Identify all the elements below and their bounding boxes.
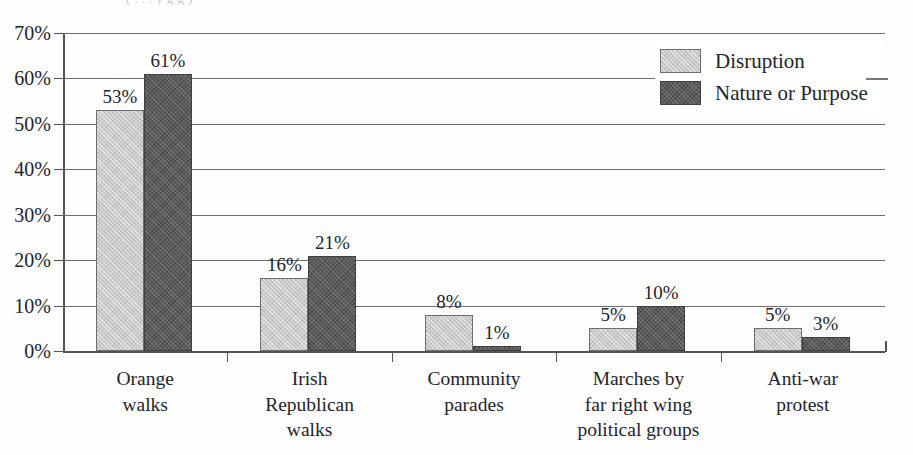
x-axis-category-line: walks <box>63 392 227 418</box>
x-axis-category-line: far right wing <box>556 392 720 418</box>
scan-artifact-dash <box>866 78 888 80</box>
x-axis-start-cap <box>63 341 65 352</box>
y-tick-30 <box>54 215 63 216</box>
bar-value-label: 61% <box>131 51 205 70</box>
legend-item-disruption: Disruption <box>655 45 885 77</box>
x-axis-category-label: IrishRepublicanwalks <box>227 366 391 443</box>
bar <box>144 74 192 351</box>
x-axis-category-line: Republican <box>227 392 391 418</box>
y-axis-tick-label: 20% <box>3 250 51 270</box>
bar-value-label: 5% <box>576 305 650 324</box>
y-axis-tick-label: 0% <box>3 341 51 361</box>
x-axis-category-line: parades <box>392 392 556 418</box>
y-axis-line <box>63 33 65 351</box>
legend-swatch-disruption <box>660 49 701 73</box>
x-axis-category-line: Anti-war <box>721 366 885 392</box>
bar-value-label: 8% <box>412 292 486 311</box>
x-axis-category-label: Anti-warprotest <box>721 366 885 417</box>
x-axis-category-line: Community <box>392 366 556 392</box>
x-axis-tick <box>556 351 557 362</box>
legend-swatch-nature-or-purpose <box>660 81 701 105</box>
legend-label-disruption: Disruption <box>715 51 805 72</box>
y-axis-tick-label: 10% <box>3 296 51 316</box>
x-axis-category-label: Communityparades <box>392 366 556 417</box>
gridline-70 <box>63 33 885 34</box>
y-axis-tick-label: 70% <box>3 23 51 43</box>
legend-label-nature-or-purpose: Nature or Purpose <box>715 83 868 104</box>
x-axis-tick <box>721 351 722 362</box>
y-tick-50 <box>54 124 63 125</box>
y-tick-10 <box>54 306 63 307</box>
y-axis-tick-label: 50% <box>3 114 51 134</box>
x-axis-category-line: Irish <box>227 366 391 392</box>
bar-value-label: 21% <box>295 233 369 252</box>
x-axis-category-line: Orange <box>63 366 227 392</box>
y-axis-tick-label: 40% <box>3 159 51 179</box>
x-axis-category-label: Marches byfar right wingpolitical groups <box>556 366 720 443</box>
bar-value-label: 3% <box>789 314 863 333</box>
x-axis-tick <box>227 351 228 362</box>
chart-legend: Disruption Nature or Purpose <box>655 41 885 115</box>
y-tick-60 <box>54 78 63 79</box>
bar-value-label: 53% <box>83 87 157 106</box>
x-axis-end-cap <box>885 341 887 352</box>
caption-remnant: ( . . . y g g ) <box>126 0 686 5</box>
bar-value-label: 1% <box>460 323 534 342</box>
legend-item-nature-or-purpose: Nature or Purpose <box>655 77 885 109</box>
y-axis-tick-label: 30% <box>3 205 51 225</box>
x-axis-category-line: Marches by <box>556 366 720 392</box>
x-axis-tick <box>392 351 393 362</box>
bar-chart-figure: ( . . . y g g ) 0%10%20%30%40%50%60%70% … <box>0 0 913 455</box>
bar <box>802 337 850 351</box>
x-axis-category-line: protest <box>721 392 885 418</box>
bar-value-label: 16% <box>247 255 321 274</box>
y-tick-70 <box>54 33 63 34</box>
bar <box>589 328 637 351</box>
y-axis-tick-label: 60% <box>3 68 51 88</box>
x-axis-line <box>63 351 885 353</box>
x-axis-category-line: walks <box>227 417 391 443</box>
y-tick-40 <box>54 169 63 170</box>
y-tick-0 <box>54 351 63 352</box>
x-axis-category-label: Orangewalks <box>63 366 227 417</box>
x-axis-category-line: political groups <box>556 417 720 443</box>
y-tick-20 <box>54 260 63 261</box>
bar-value-label: 10% <box>624 283 698 302</box>
bar <box>96 110 144 351</box>
bar <box>260 278 308 351</box>
